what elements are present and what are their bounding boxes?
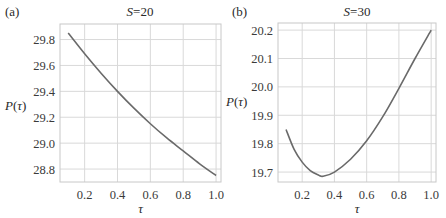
y-tick-label: 28.8 bbox=[33, 163, 55, 177]
y-tick-label: 29.6 bbox=[33, 59, 55, 73]
y-tick-label: 29.0 bbox=[33, 137, 55, 151]
y-tick-label: 29.8 bbox=[33, 33, 55, 47]
y-label-paren: ) bbox=[243, 94, 247, 109]
y-label-paren: ) bbox=[22, 98, 26, 113]
panel-label: (b) bbox=[232, 4, 247, 19]
y-tick-label: 19.8 bbox=[251, 137, 273, 151]
x-axis-label: τ bbox=[355, 201, 361, 216]
x-tick-label: 0.2 bbox=[294, 188, 310, 202]
x-tick-label: 0.4 bbox=[327, 188, 343, 202]
y-tick-label: 19.9 bbox=[251, 109, 273, 123]
chart-title: S=30 bbox=[344, 4, 371, 19]
x-tick-label: 0.4 bbox=[110, 188, 126, 202]
x-tick-label: 0.8 bbox=[391, 188, 407, 202]
chart-title: S=20 bbox=[127, 4, 154, 19]
y-axis-label: P(τ) bbox=[4, 98, 26, 113]
x-tick-label: 0.6 bbox=[359, 188, 375, 202]
title-value: =20 bbox=[133, 4, 153, 19]
chart-figure: 0.20.40.60.81.028.829.029.229.429.629.8(… bbox=[0, 0, 446, 218]
x-tick-label: 0.2 bbox=[77, 188, 93, 202]
y-label-symbol: P bbox=[4, 98, 13, 113]
y-tick-label: 20.2 bbox=[251, 24, 273, 38]
x-tick-label: 0.8 bbox=[175, 188, 191, 202]
y-tick-label: 29.2 bbox=[33, 111, 55, 125]
panel-b: 0.20.40.60.81.019.719.819.920.020.120.2(… bbox=[225, 4, 439, 216]
y-tick-label: 29.4 bbox=[33, 85, 56, 99]
y-tick-label: 20.0 bbox=[251, 80, 273, 94]
x-tick-label: 0.6 bbox=[143, 188, 159, 202]
y-tick-label: 20.1 bbox=[251, 52, 273, 66]
y-tick-label: 19.7 bbox=[251, 166, 273, 180]
title-value: =30 bbox=[350, 4, 370, 19]
series-line bbox=[286, 30, 431, 176]
y-label-symbol: P bbox=[225, 94, 234, 109]
panel-a: 0.20.40.60.81.028.829.029.229.429.629.8(… bbox=[4, 4, 224, 216]
y-axis-label: P(τ) bbox=[225, 94, 247, 109]
x-tick-label: 1.0 bbox=[423, 188, 439, 202]
x-axis-label: τ bbox=[138, 201, 144, 216]
panel-label: (a) bbox=[5, 4, 19, 19]
x-tick-label: 1.0 bbox=[208, 188, 224, 202]
series-line bbox=[68, 33, 216, 175]
